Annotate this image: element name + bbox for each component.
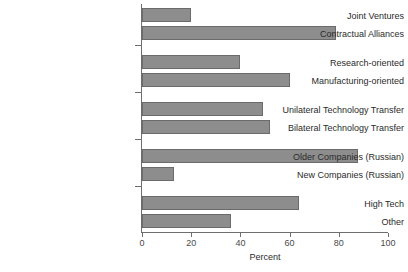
- bar-new-companies-russian: [142, 167, 174, 181]
- x-axis-tick: [339, 233, 340, 237]
- chart-page: Joint Ventures Contractual Alliances Res…: [0, 0, 408, 272]
- x-axis-tick-label: 40: [220, 238, 260, 249]
- bar-label-manufacturing-oriented: Manufacturing-oriented: [276, 76, 408, 86]
- x-axis-line: [141, 232, 388, 233]
- x-axis-tick: [388, 233, 389, 237]
- bar-label-new-companies-russian: New Companies (Russian): [276, 170, 408, 180]
- bar-label-high-tech: High Tech: [276, 199, 408, 209]
- bar-unilateral-technology-transfer: [142, 102, 263, 116]
- bar-label-joint-ventures: Joint Ventures: [276, 11, 408, 21]
- x-axis-tick-label: 20: [171, 238, 211, 249]
- bar-bilateral-technology-transfer: [142, 120, 270, 134]
- y-axis-group-tick: [135, 92, 141, 93]
- x-axis-tick-label: 60: [270, 238, 310, 249]
- bar-joint-ventures: [142, 8, 191, 22]
- x-axis-tick-label: 80: [319, 238, 359, 249]
- bar-label-research-oriented: Research-oriented: [276, 58, 408, 68]
- bar-chart-plot: Joint Ventures Contractual Alliances Res…: [0, 0, 408, 272]
- bar-research-oriented: [142, 55, 240, 69]
- bar-other: [142, 214, 231, 228]
- x-axis-title: Percent: [142, 252, 388, 262]
- y-axis-group-tick: [135, 186, 141, 187]
- x-axis-tick: [290, 233, 291, 237]
- x-axis-tick-label: 100: [368, 238, 408, 249]
- x-axis-tick-label: 0: [122, 238, 162, 249]
- bar-label-bilateral-technology-transfer: Bilateral Technology Transfer: [276, 123, 408, 133]
- x-axis-tick: [240, 233, 241, 237]
- bar-label-contractual-alliances: Contractual Alliances: [276, 29, 408, 39]
- y-axis-group-tick: [135, 139, 141, 140]
- x-axis-tick: [191, 233, 192, 237]
- bar-label-unilateral-technology-transfer: Unilateral Technology Transfer: [276, 105, 408, 115]
- bar-manufacturing-oriented: [142, 73, 290, 87]
- bar-label-other: Other: [276, 217, 408, 227]
- x-axis-tick: [142, 233, 143, 237]
- bar-label-older-companies-russian: Older Companies (Russian): [276, 152, 408, 162]
- y-axis-group-tick: [135, 45, 141, 46]
